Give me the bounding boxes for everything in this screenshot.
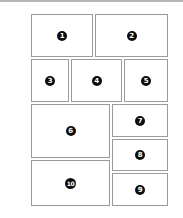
number-badge: 10 — [65, 178, 76, 189]
panel-7: 7 — [112, 104, 168, 137]
number-badge: 2 — [127, 31, 137, 41]
panel-8: 8 — [112, 139, 168, 171]
number-badge: 7 — [135, 116, 145, 126]
panel-1: 1 — [31, 14, 93, 57]
number-badge: 3 — [45, 76, 55, 86]
panel-9: 9 — [112, 173, 168, 206]
number-badge: 5 — [141, 76, 151, 86]
panel-4: 4 — [71, 59, 122, 102]
number-badge: 9 — [135, 185, 145, 195]
panel-3: 3 — [31, 59, 69, 102]
number-badge: 4 — [92, 76, 102, 86]
number-badge: 6 — [66, 126, 76, 136]
number-badge: 8 — [135, 150, 145, 160]
panel-5: 5 — [124, 59, 168, 102]
panel-6: 6 — [31, 104, 110, 158]
panel-2: 2 — [95, 14, 168, 57]
number-badge: 1 — [57, 31, 67, 41]
top-divider — [0, 0, 183, 2]
panel-10: 10 — [31, 160, 110, 206]
